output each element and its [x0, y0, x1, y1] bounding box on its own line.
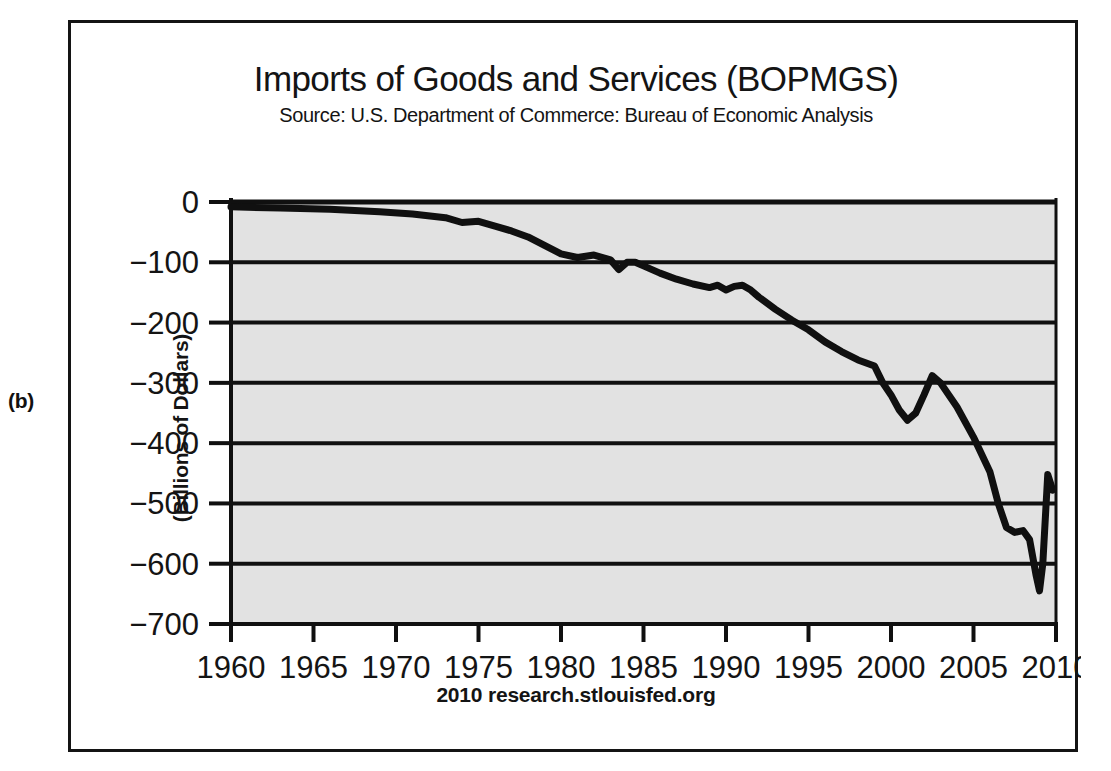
figure-frame: Imports of Goods and Services (BOPMGS) S…: [68, 20, 1078, 752]
y-tick-label: 0: [182, 185, 199, 220]
y-tick-label: −300: [129, 366, 199, 401]
y-tick-label: −700: [129, 607, 199, 642]
x-tick-label: 2010: [1022, 650, 1081, 685]
x-tick-label: 1990: [692, 650, 761, 685]
x-tick-label: 2005: [939, 650, 1008, 685]
x-tick-label: 1960: [197, 650, 266, 685]
x-tick-label: 1970: [362, 650, 431, 685]
x-axis-ticks: 1960196519701975198019851990199520002005…: [197, 624, 1081, 685]
x-tick-label: 1975: [444, 650, 513, 685]
y-tick-label: −400: [129, 426, 199, 461]
panel-label: (b): [8, 389, 34, 413]
y-tick-label: −200: [129, 306, 199, 341]
y-tick-label: −600: [129, 547, 199, 582]
x-tick-label: 1980: [527, 650, 596, 685]
figure-page: (b) Imports of Goods and Services (BOPMG…: [0, 0, 1111, 771]
y-tick-label: −100: [129, 245, 199, 280]
x-tick-label: 1985: [609, 650, 678, 685]
y-tick-label: −500: [129, 486, 199, 521]
y-axis-ticks: 0−100−200−300−400−500−600−700: [129, 185, 231, 642]
x-tick-label: 2000: [857, 650, 926, 685]
footer-note: 2010 research.stlouisfed.org: [71, 683, 1081, 707]
x-tick-label: 1965: [279, 650, 348, 685]
x-tick-label: 1995: [774, 650, 843, 685]
chart-plot-area: 0−100−200−300−400−500−600−700 1960196519…: [71, 23, 1081, 755]
